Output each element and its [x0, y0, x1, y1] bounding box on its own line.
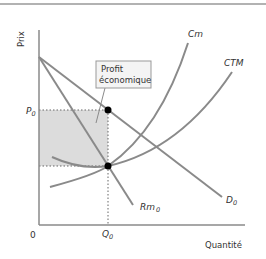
price-label: P0: [26, 106, 36, 118]
quantity-label: Q0: [102, 229, 113, 241]
economic-profit-diagram: Profit économique Prix Quantité 0 P0 Q0 …: [0, 0, 266, 259]
origin-label: 0: [30, 230, 36, 240]
atc-point: [105, 163, 112, 170]
y-axis-label: Prix: [16, 31, 26, 47]
price-point: [105, 107, 112, 114]
marginal-cost-label: Cm: [188, 29, 203, 39]
demand-label: D0: [226, 195, 237, 207]
x-axis-label: Quantité: [205, 240, 242, 250]
callout-line2: économique: [99, 75, 151, 85]
callout-line1: Profit: [101, 64, 124, 74]
average-total-cost-label: CTM: [224, 58, 244, 68]
marginal-revenue-label: Rm0: [140, 202, 160, 214]
